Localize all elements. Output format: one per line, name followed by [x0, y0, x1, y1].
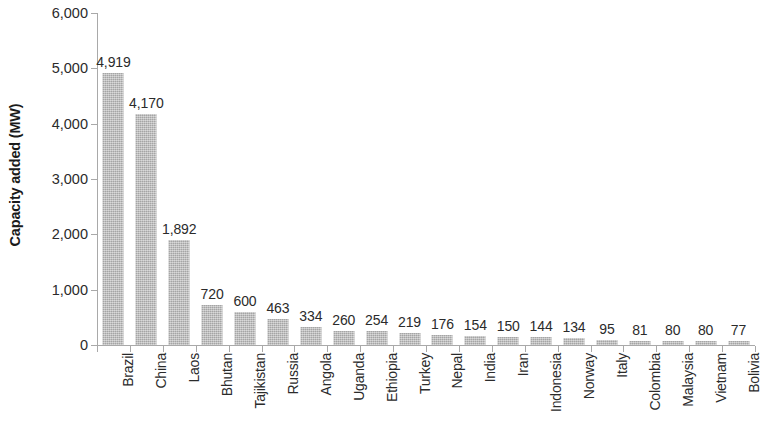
bar-slot: 134 [558, 13, 591, 345]
x-axis-tick-mark [393, 346, 394, 352]
bar-slot: 150 [492, 13, 525, 345]
bar-value-label: 144 [530, 318, 553, 334]
plot-area: 4,9194,1701,8927206004633342602542191761… [97, 13, 755, 345]
y-axis-tick-label: 4,000 [28, 116, 88, 132]
bar-value-label: 154 [464, 317, 487, 333]
bar[interactable] [465, 336, 486, 345]
x-axis-tick-mark [459, 346, 460, 352]
bar[interactable] [432, 335, 453, 345]
x-axis-category-label: India [482, 353, 496, 382]
x-axis-tick-mark [97, 346, 98, 352]
bar[interactable] [564, 338, 585, 345]
y-axis-tick-label: 2,000 [28, 226, 88, 242]
x-axis-tick-mark [722, 346, 723, 352]
bar-value-label: 80 [665, 322, 680, 338]
x-axis-tick-mark [327, 346, 328, 352]
bar[interactable] [498, 337, 519, 345]
x-axis-tick-mark [262, 346, 263, 352]
x-axis-tick-mark [294, 346, 295, 352]
x-axis-category-label: Laos [186, 353, 200, 383]
bar-slot: 144 [525, 13, 558, 345]
x-axis-category-label: Vietnam [713, 353, 727, 403]
y-axis-tick-label: 1,000 [28, 282, 88, 298]
bar[interactable] [235, 312, 256, 345]
bar-value-label: 254 [365, 312, 388, 328]
bar-slot: 80 [656, 13, 689, 345]
x-axis-category-label: Nepal [449, 353, 463, 389]
bar-value-label: 81 [632, 322, 647, 338]
bar-value-label: 720 [201, 286, 224, 302]
x-axis-tick-mark [656, 346, 657, 352]
x-axis-tick-mark [591, 346, 592, 352]
bar-chart: Capacity added (MW) 6,0005,0004,0003,000… [0, 0, 771, 436]
x-axis-category-label: Turkey [417, 353, 431, 394]
bar-slot: 334 [294, 13, 327, 345]
y-axis-tick-label: 6,000 [28, 5, 88, 21]
bar-slot: 77 [722, 13, 755, 345]
x-axis-category-label: Malaysia [680, 353, 694, 407]
y-axis-tick-label: 0 [28, 337, 88, 353]
bar-value-label: 4,919 [96, 54, 131, 70]
bar-slot: 1,892 [163, 13, 196, 345]
bar-slot: 81 [623, 13, 656, 345]
bar-slot: 219 [393, 13, 426, 345]
x-axis-category-label: Uganda [351, 353, 365, 401]
y-axis-title: Capacity added (MW) [0, 0, 30, 350]
bar-slot: 254 [360, 13, 393, 345]
bar-value-label: 219 [398, 314, 421, 330]
bar[interactable] [399, 333, 420, 345]
bar-slot: 600 [229, 13, 262, 345]
bar[interactable] [366, 331, 387, 345]
bar-value-label: 95 [599, 321, 614, 337]
bar-slot: 154 [459, 13, 492, 345]
x-axis-tick-mark [492, 346, 493, 352]
bar[interactable] [596, 340, 617, 345]
bar[interactable] [169, 240, 190, 345]
bar-value-label: 334 [299, 308, 322, 324]
x-axis-category-label: Italy [614, 353, 628, 378]
bar[interactable] [333, 331, 354, 345]
x-axis-category-label: Angola [318, 353, 332, 395]
bar[interactable] [136, 114, 157, 345]
x-axis-tick-mark [130, 346, 131, 352]
x-axis-tick-mark [229, 346, 230, 352]
y-axis-tick-label: 5,000 [28, 60, 88, 76]
x-axis-tick-mark [196, 346, 197, 352]
bar-slot: 463 [262, 13, 295, 345]
bar[interactable] [300, 327, 321, 345]
bar[interactable] [202, 305, 223, 345]
bar-slot: 95 [591, 13, 624, 345]
bar-value-label: 77 [731, 322, 746, 338]
x-axis-tick-mark [525, 346, 526, 352]
x-axis-tick-mark [623, 346, 624, 352]
bar[interactable] [662, 341, 683, 345]
bar-slot: 260 [327, 13, 360, 345]
bar[interactable] [695, 341, 716, 345]
bar[interactable] [728, 341, 749, 345]
y-axis-title-text: Capacity added (MW) [7, 104, 23, 247]
x-axis-category-label: Tajikistan [252, 353, 266, 409]
bar-value-label: 463 [266, 300, 289, 316]
x-axis-category-label: Norway [581, 353, 595, 399]
x-axis-tick-mark [426, 346, 427, 352]
x-axis-category-label: Colombia [647, 353, 661, 411]
bar[interactable] [629, 341, 650, 345]
y-axis-tick-label: 3,000 [28, 171, 88, 187]
bar-slot: 80 [689, 13, 722, 345]
bar-slot: 4,170 [130, 13, 163, 345]
x-axis-tick-mark [755, 346, 756, 352]
bar-value-label: 4,170 [129, 95, 164, 111]
x-axis-tick-mark [163, 346, 164, 352]
x-axis-category-label: Indonesia [548, 353, 562, 412]
bar[interactable] [103, 73, 124, 345]
x-axis-category-label: Brazil [120, 353, 134, 387]
bar-slot: 176 [426, 13, 459, 345]
bar[interactable] [531, 337, 552, 345]
bar-slot: 720 [196, 13, 229, 345]
bar-value-label: 176 [431, 316, 454, 332]
x-axis-category-label: Ethiopia [384, 353, 398, 402]
bar-value-label: 1,892 [162, 221, 197, 237]
x-axis-category-label: Bolivia [746, 353, 760, 393]
x-axis-category-label: Bhutan [219, 353, 233, 396]
bar[interactable] [267, 319, 288, 345]
